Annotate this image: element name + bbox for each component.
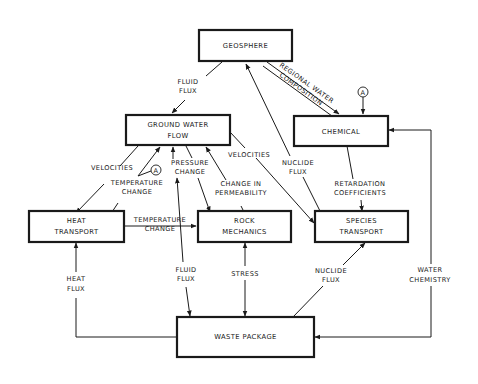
label-stress: STRESS xyxy=(231,270,259,278)
edge-stress: STRESS xyxy=(231,243,259,316)
label-fluid-flux-top-2: FLUX xyxy=(179,87,197,95)
label-velocities-right: VELOCITIES xyxy=(228,151,270,159)
marker-a-label-left: A xyxy=(154,167,159,175)
node-ground-water-flow: GROUND WATER FLOW xyxy=(126,115,230,145)
node-waste-package: WASTE PACKAGE xyxy=(177,317,314,357)
label-temperature-change-up-2: CHANGE xyxy=(122,188,153,196)
label-retardation: RETARDATION xyxy=(335,180,386,188)
node-chemical-label: CHEMICAL xyxy=(322,128,360,136)
label-permeability: PERMEABILITY xyxy=(215,189,268,197)
marker-a-label-right: A xyxy=(361,89,366,97)
edge-temperature-change-up: A TEMPERATURE CHANGE xyxy=(110,147,163,212)
label-coefficients: COEFFICIENTS xyxy=(334,189,386,197)
node-heat-transport-line2: TRANSPORT xyxy=(53,228,99,236)
label-nuclide-flux-bottom-2: FLUX xyxy=(322,276,340,284)
edge-fluid-flux-bottom: FLUID FLUX xyxy=(176,178,197,316)
label-temperature-change-up-1: TEMPERATURE xyxy=(110,179,163,187)
label-change-in-1: CHANGE IN xyxy=(221,180,262,188)
label-pressure-change-2: CHANGE xyxy=(175,168,206,176)
label-fluid-flux-bottom-2: FLUX xyxy=(177,275,195,283)
label-pressure-change-1: PRESSURE xyxy=(171,159,209,167)
node-rock-mechanics: ROCK MECHANICS xyxy=(198,211,291,242)
label-water: WATER xyxy=(418,266,443,274)
edge-regional-water-composition: REGIONAL WATER COMPOSITION xyxy=(263,61,339,116)
node-heat-transport: HEAT TRANSPORT xyxy=(29,211,124,242)
node-gwf-line1: GROUND WATER xyxy=(147,121,208,129)
label-heat-flux-2: FLUX xyxy=(67,285,85,293)
node-gwf-line2: FLOW xyxy=(167,132,188,140)
edge-marker-a-chemical: A xyxy=(358,87,368,114)
node-geosphere-label: GEOSPHERE xyxy=(223,42,268,50)
node-geosphere: GEOSPHERE xyxy=(199,30,292,61)
label-temperature-change-horiz-2: CHANGE xyxy=(145,225,176,233)
label-nuclide-flux-bottom-1: NUCLIDE xyxy=(315,267,347,275)
node-rock-mechanics-line2: MECHANICS xyxy=(222,228,266,236)
label-fluid-flux-top-1: FLUID xyxy=(178,78,199,86)
node-species-transport-line2: TRANSPORT xyxy=(338,228,384,236)
label-velocities-left: VELOCITIES xyxy=(91,164,133,172)
label-temperature-change-horiz-1: TEMPERATURE xyxy=(133,216,186,224)
edge-retardation-coefficients: RETARDATION COEFFICIENTS xyxy=(334,146,386,211)
node-rock-mechanics-line1: ROCK xyxy=(234,217,255,225)
edge-temperature-change-horiz: TEMPERATURE CHANGE xyxy=(124,216,196,233)
label-chemistry: CHEMISTRY xyxy=(409,276,451,284)
node-species-transport: SPECIES TRANSPORT xyxy=(315,211,408,242)
node-species-transport-line1: SPECIES xyxy=(346,217,377,225)
label-nuclide-flux-top-2: FLUX xyxy=(289,168,307,176)
flow-diagram: FLUID FLUX REGIONAL WATER COMPOSITION A … xyxy=(0,0,478,384)
edge-heat-flux: HEAT FLUX xyxy=(67,243,177,337)
node-heat-transport-line1: HEAT xyxy=(67,217,87,225)
node-waste-package-label: WASTE PACKAGE xyxy=(214,333,277,341)
node-chemical: CHEMICAL xyxy=(294,116,388,146)
label-heat-flux-1: HEAT xyxy=(67,275,86,283)
label-fluid-flux-bottom-1: FLUID xyxy=(176,266,197,274)
edge-fluid-flux-top: FLUID FLUX xyxy=(172,62,222,113)
label-nuclide-flux-top-1: NUCLIDE xyxy=(282,159,314,167)
edge-nuclide-flux-bottom: NUCLIDE FLUX xyxy=(293,243,365,317)
